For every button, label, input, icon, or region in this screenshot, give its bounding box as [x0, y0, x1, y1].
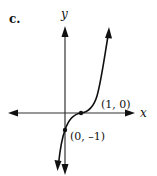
point-0-neg1 [63, 128, 67, 132]
curve-down-arrow-icon [55, 160, 62, 171]
cubic-curve [55, 27, 113, 171]
curve-up-arrow-icon [105, 27, 112, 39]
graph-canvas [0, 0, 157, 176]
y-axis-down-arrow-icon [62, 164, 69, 175]
point-1-0 [79, 111, 83, 115]
y-axis [62, 26, 69, 175]
x-axis-right-arrow-icon [125, 110, 135, 117]
y-axis-up-arrow-icon [62, 26, 69, 37]
x-axis [8, 110, 135, 117]
x-axis-left-arrow-icon [8, 110, 18, 117]
